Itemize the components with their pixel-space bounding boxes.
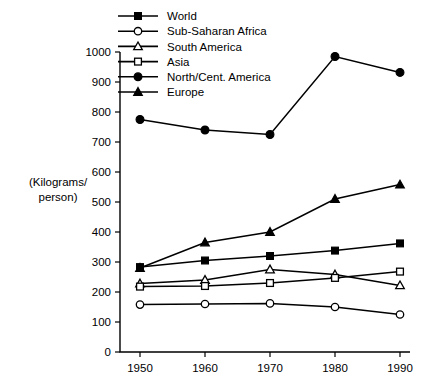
legend-label: Asia (167, 56, 190, 68)
data-point-marker (201, 126, 209, 134)
y-tick-label: 100 (92, 316, 111, 328)
x-tick-label: 1980 (322, 362, 348, 374)
legend-label: Sub-Saharan Africa (167, 25, 267, 37)
data-point-marker (331, 303, 338, 310)
legend-label: South America (167, 41, 242, 53)
legend-item-world[interactable]: World (118, 10, 197, 22)
x-tick-label: 1970 (257, 362, 283, 374)
legend-swatch-marker (134, 73, 142, 81)
y-tick-label: 300 (92, 256, 111, 268)
y-tick-label: 400 (92, 226, 111, 238)
data-point-marker (266, 228, 275, 236)
x-tick-label: 1950 (127, 362, 153, 374)
y-tick-label: 0 (105, 346, 111, 358)
data-point-marker (202, 257, 209, 264)
legend-swatch-marker (135, 13, 142, 20)
series-markers (136, 300, 403, 319)
x-tick-label: 1990 (387, 362, 413, 374)
data-point-marker (397, 268, 404, 275)
legend-swatch-marker (135, 58, 142, 65)
legend-label: Europe (167, 86, 204, 98)
data-point-marker (331, 53, 339, 61)
x-tick-label: 1960 (192, 362, 218, 374)
y-tick-label: 200 (92, 286, 111, 298)
y-tick-label: 1000 (85, 46, 111, 58)
y-tick-label: 500 (92, 196, 111, 208)
data-point-marker (137, 283, 144, 290)
y-axis-label-line2: person) (39, 191, 78, 203)
y-axis-label-line1: (Kilograms/ (29, 176, 88, 188)
y-tick-label: 900 (92, 76, 111, 88)
data-point-marker (201, 300, 208, 307)
legend-item-north-cent-america[interactable]: North/Cent. America (118, 71, 271, 83)
y-tick-label: 800 (92, 106, 111, 118)
data-point-marker (397, 240, 404, 247)
data-point-marker (266, 131, 274, 139)
legend-item-europe[interactable]: Europe (118, 86, 204, 98)
y-tick-label: 700 (92, 136, 111, 148)
data-point-marker (266, 265, 275, 273)
data-point-marker (332, 275, 339, 282)
data-point-marker (202, 283, 209, 290)
data-point-marker (396, 180, 405, 188)
data-point-marker (136, 301, 143, 308)
data-point-marker (267, 280, 274, 287)
legend-item-asia[interactable]: Asia (118, 56, 190, 68)
legend-swatch-marker (134, 28, 141, 35)
data-point-marker (332, 247, 339, 254)
y-tick-label: 600 (92, 166, 111, 178)
data-point-marker (396, 311, 403, 318)
legend-item-south-america[interactable]: South America (118, 41, 242, 53)
legend-label: North/Cent. America (167, 71, 271, 83)
chart-container: 0100200300400500600700800900100019501960… (0, 0, 426, 380)
data-point-marker (266, 300, 273, 307)
data-point-marker (267, 253, 274, 260)
axis-lines (120, 52, 410, 352)
legend-label: World (167, 10, 197, 22)
data-point-marker (396, 69, 404, 77)
data-point-marker (136, 116, 144, 124)
legend-item-sub-saharan-africa[interactable]: Sub-Saharan Africa (118, 25, 267, 37)
line-chart: 0100200300400500600700800900100019501960… (0, 0, 426, 380)
